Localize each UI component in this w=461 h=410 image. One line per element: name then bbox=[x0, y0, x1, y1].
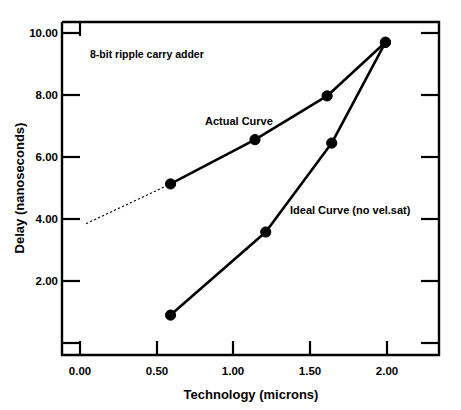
series-lines bbox=[171, 42, 386, 315]
y-tick-label: 6.00 bbox=[36, 151, 58, 163]
y-tick-label: 4.00 bbox=[36, 213, 58, 225]
y-tick-label: 8.00 bbox=[36, 89, 58, 101]
data-point-marker bbox=[380, 37, 390, 47]
data-point-marker bbox=[165, 310, 175, 320]
series-label-actual-curve: Actual Curve bbox=[205, 115, 273, 127]
data-point-marker bbox=[327, 138, 337, 148]
series-line-ideal bbox=[171, 42, 386, 315]
chart-canvas: 10.00 8.00 6.00 4.00 2.00 0.00 0.50 1.00… bbox=[0, 0, 461, 410]
y-axis-ticks bbox=[62, 33, 439, 343]
y-tick-label: 10.00 bbox=[29, 27, 58, 39]
data-point-marker bbox=[322, 91, 332, 101]
series-line-actual bbox=[171, 42, 386, 184]
actual-curve-extrapolation bbox=[86, 184, 170, 224]
y-tick-label: 2.00 bbox=[36, 275, 58, 287]
x-axis-title: Technology (microns) bbox=[184, 387, 319, 402]
x-tick-label: 1.00 bbox=[222, 365, 244, 377]
x-tick-label: 2.00 bbox=[376, 365, 398, 377]
y-tick-labels: 10.00 8.00 6.00 4.00 2.00 bbox=[29, 27, 58, 287]
data-point-marker bbox=[261, 227, 271, 237]
x-tick-label: 0.50 bbox=[146, 365, 168, 377]
x-tick-label: 0.00 bbox=[69, 365, 91, 377]
y-axis-title: Delay (nanoseconds) bbox=[12, 123, 27, 254]
data-point-marker bbox=[165, 179, 175, 189]
chart-figure: 10.00 8.00 6.00 4.00 2.00 0.00 0.50 1.00… bbox=[0, 0, 461, 410]
x-tick-labels: 0.00 0.50 1.00 1.50 2.00 bbox=[69, 365, 398, 377]
data-point-marker bbox=[250, 135, 260, 145]
x-axis-ticks bbox=[80, 22, 387, 355]
series-label-ideal-curve: Ideal Curve (no vel.sat) bbox=[290, 204, 411, 216]
series-markers bbox=[165, 37, 390, 320]
chart-caption: 8-bit ripple carry adder bbox=[90, 48, 204, 60]
plot-frame bbox=[62, 22, 439, 355]
extrapolation-line bbox=[86, 184, 170, 224]
x-tick-label: 1.50 bbox=[299, 365, 321, 377]
